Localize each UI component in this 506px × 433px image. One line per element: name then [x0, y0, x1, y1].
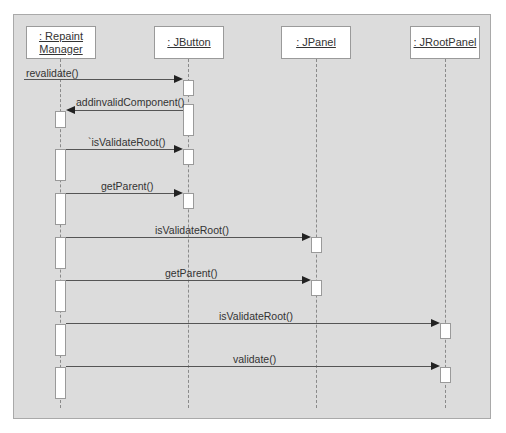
arrowhead-right-icon: [431, 319, 440, 327]
object-label: : JButton: [167, 36, 210, 49]
activation-jrootpanel: [440, 323, 451, 339]
message-label-getparent: getParent(): [101, 180, 154, 192]
activation-jbutton: [183, 193, 194, 209]
object-label-line1: : Repaint: [39, 30, 83, 43]
activation-repaint-manager: [55, 111, 66, 128]
activation-jpanel: [311, 280, 322, 296]
activation-repaint-manager: [55, 280, 66, 312]
activation-repaint-manager: [55, 324, 66, 356]
message-line-isvalidateroot: [66, 149, 174, 150]
message-line-isvalidateroot: [66, 323, 431, 324]
object-label: : JPanel: [296, 36, 336, 49]
object-label: : JRootPanel: [414, 36, 477, 49]
message-label-revalidate: revalidate(): [26, 67, 79, 79]
arrowhead-right-icon: [302, 233, 311, 241]
arrowhead-right-icon: [174, 189, 183, 197]
message-label-isvalidateroot: `isValidateRoot(): [88, 136, 165, 148]
object-jbutton: : JButton: [154, 26, 224, 59]
object-jrootpanel: : JRootPanel: [410, 26, 480, 59]
activation-jbutton: [183, 104, 194, 136]
object-label-line2: Manager: [39, 43, 82, 56]
arrowhead-right-icon: [302, 276, 311, 284]
message-line-isvalidateroot: [66, 237, 302, 238]
activation-jbutton: [183, 149, 194, 165]
object-repaint-manager: : Repaint Manager: [26, 26, 96, 59]
lifeline-jpanel: [316, 59, 317, 408]
message-line-getparent: [66, 280, 302, 281]
activation-repaint-manager: [55, 193, 66, 225]
lifeline-jrootpanel: [445, 59, 446, 408]
message-label-addinvalidcomponent: addinvalidComponent(): [76, 96, 185, 108]
message-line-addinvalidcomponent: [75, 110, 183, 111]
message-label-getparent: getParent(): [165, 267, 218, 279]
message-line-getparent: [66, 193, 174, 194]
activation-repaint-manager: [55, 367, 66, 399]
activation-repaint-manager: [55, 237, 66, 269]
arrowhead-left-icon: [66, 106, 75, 114]
activation-jrootpanel: [440, 367, 451, 383]
message-line-revalidate: [24, 79, 174, 80]
activation-jpanel: [311, 237, 322, 253]
arrowhead-right-icon: [174, 75, 183, 83]
message-label-isvalidateroot: isValidateRoot(): [155, 224, 229, 236]
arrowhead-right-icon: [174, 145, 183, 153]
object-jpanel: : JPanel: [281, 26, 351, 59]
activation-jbutton: [183, 80, 194, 96]
message-line-validate: [66, 366, 431, 367]
activation-repaint-manager: [55, 149, 66, 181]
message-label-validate: validate(): [233, 353, 276, 365]
arrowhead-right-icon: [431, 362, 440, 370]
message-label-isvalidateroot: isValidateRoot(): [219, 310, 293, 322]
